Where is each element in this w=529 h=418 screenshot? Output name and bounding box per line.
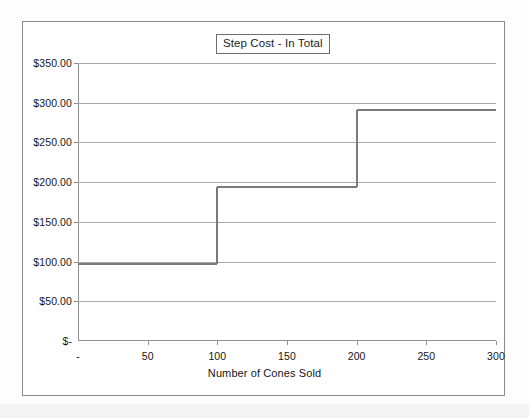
y-axis-line xyxy=(78,63,79,341)
series-segment xyxy=(78,263,217,265)
x-tick-mark xyxy=(217,341,218,345)
y-tick-label: $100.00 xyxy=(6,256,72,268)
x-tick-label: 300 xyxy=(466,350,526,362)
y-tick-mark xyxy=(74,142,78,143)
y-tick-label: $250.00 xyxy=(6,136,72,148)
chart-frame: Step Cost - In Total $-$50.00$100.00$150… xyxy=(22,21,505,396)
x-tick-mark xyxy=(426,341,427,345)
x-tick-mark xyxy=(357,341,358,345)
gridline-y xyxy=(78,63,496,64)
gridline-y xyxy=(78,142,496,143)
y-tick-label: $50.00 xyxy=(6,295,72,307)
gridline-y xyxy=(78,182,496,183)
x-tick-mark xyxy=(287,341,288,345)
y-tick-mark xyxy=(74,222,78,223)
x-axis-title: Number of Cones Sold xyxy=(23,367,506,379)
y-tick-label: $300.00 xyxy=(6,97,72,109)
series-riser xyxy=(356,110,358,187)
y-tick-mark xyxy=(74,103,78,104)
x-tick-label: 100 xyxy=(187,350,247,362)
y-tick-label: $350.00 xyxy=(6,57,72,69)
x-tick-label: 250 xyxy=(396,350,456,362)
series-riser xyxy=(216,187,218,264)
series-segment xyxy=(357,109,496,111)
y-tick-label: $- xyxy=(6,335,72,347)
page-scan-edge xyxy=(0,404,529,418)
y-tick-mark xyxy=(74,182,78,183)
y-tick-mark xyxy=(74,301,78,302)
plot-area xyxy=(78,63,496,341)
x-tick-mark xyxy=(148,341,149,345)
x-tick-mark xyxy=(496,341,497,345)
gridline-y xyxy=(78,222,496,223)
y-tick-label: $200.00 xyxy=(6,176,72,188)
y-tick-mark xyxy=(74,262,78,263)
y-tick-mark xyxy=(74,63,78,64)
series-segment xyxy=(217,186,356,188)
x-tick-label: 150 xyxy=(257,350,317,362)
chart-title: Step Cost - In Total xyxy=(216,34,330,54)
y-tick-label: $150.00 xyxy=(6,216,72,228)
x-tick-label: 50 xyxy=(118,350,178,362)
x-tick-label: - xyxy=(48,350,108,362)
gridline-y xyxy=(78,103,496,104)
gridline-y xyxy=(78,301,496,302)
x-tick-label: 200 xyxy=(327,350,387,362)
